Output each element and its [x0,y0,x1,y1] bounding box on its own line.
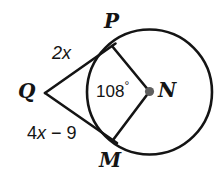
label-point-n: N [158,80,176,100]
label-segment-qp-length: 2x [52,44,71,62]
degree-symbol-icon: ° [124,79,129,93]
label-central-angle-value: 108 [96,82,124,101]
label-segment-qm-variable: x [37,123,46,143]
label-point-q: Q [18,81,35,101]
geometry-figure: P Q N M 2x 4x − 9 108° [0,0,224,178]
label-segment-qm-constant: − 9 [46,123,77,143]
label-central-angle: 108° [96,83,129,100]
label-point-p: P [104,11,119,31]
label-segment-qm-coefficient: 4 [27,123,37,143]
label-segment-qp-text: 2x [52,43,71,63]
label-point-m: M [99,150,121,170]
center-dot-n [145,87,154,96]
label-segment-qm-length: 4x − 9 [27,124,77,142]
